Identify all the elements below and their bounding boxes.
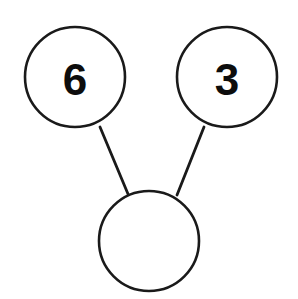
connector-right-part-to-whole xyxy=(177,127,204,195)
number-bond-canvas: 6 3 xyxy=(0,0,298,299)
part-value-right: 3 xyxy=(215,55,239,104)
part-value-left: 6 xyxy=(63,55,87,104)
connector-left-part-to-whole xyxy=(100,127,128,194)
number-bond-diagram: 6 3 xyxy=(0,0,298,299)
whole-circle-bottom[interactable] xyxy=(99,191,199,291)
